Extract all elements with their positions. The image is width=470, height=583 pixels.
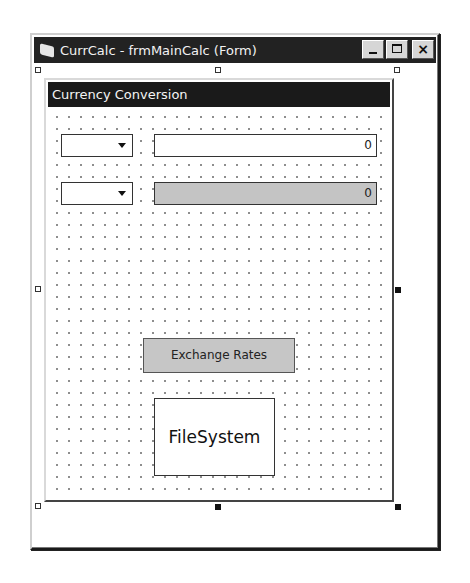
to-currency-combo[interactable] <box>61 182 133 205</box>
to-amount-textbox[interactable]: 0 <box>154 182 377 205</box>
maximize-button[interactable] <box>386 40 408 59</box>
close-button[interactable]: × <box>412 40 434 59</box>
resize-handle-bottom-left[interactable] <box>35 503 41 509</box>
maximize-icon <box>392 44 402 53</box>
from-amount-textbox[interactable]: 0 <box>154 134 377 157</box>
form-icon <box>40 43 54 57</box>
resize-handle-top[interactable] <box>215 67 221 73</box>
from-currency-combo[interactable] <box>61 134 133 157</box>
resize-handle-left[interactable] <box>35 286 41 292</box>
resize-handle-right[interactable] <box>395 287 401 293</box>
title-bar[interactable]: CurrCalc - frmMainCalc (Form) × <box>34 37 436 63</box>
minimize-icon <box>369 52 377 54</box>
resize-handle-bottom-right[interactable] <box>395 504 401 510</box>
window-title: CurrCalc - frmMainCalc (Form) <box>60 43 257 58</box>
chevron-down-icon <box>118 191 126 196</box>
filesystem-control[interactable]: FileSystem <box>154 398 275 476</box>
chevron-down-icon <box>118 143 126 148</box>
exchange-rates-button[interactable]: Exchange Rates <box>143 338 295 373</box>
minimize-button[interactable] <box>362 40 384 59</box>
resize-handle-bottom[interactable] <box>215 504 221 510</box>
resize-handle-top-right[interactable] <box>394 67 400 73</box>
form-caption: Currency Conversion <box>48 82 390 107</box>
close-icon: × <box>417 41 429 57</box>
resize-handle-top-left[interactable] <box>35 67 41 73</box>
